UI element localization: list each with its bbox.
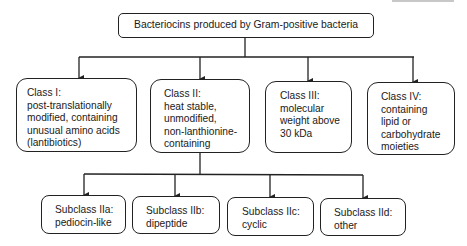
class-desc-line: weight above [280, 115, 351, 128]
subclass-title: Subclass IIa: [55, 204, 125, 217]
root-node: Bacteriocins produced by Gram-positive b… [118, 13, 374, 38]
class-desc-line: 30 kDa [280, 128, 351, 141]
class-title: Class II: [164, 88, 249, 101]
subclass-iib-node: Subclass IIb: dipeptide [132, 196, 220, 234]
class-iv-node: Class IV: containing lipid or carbohydra… [367, 82, 455, 155]
class-desc-line: unmodified, [164, 113, 249, 126]
class-desc-line: unusual amino acids [27, 125, 136, 138]
subclass-desc: cyclic [242, 219, 313, 232]
class-i-node: Class I: post-translationally modified, … [16, 78, 137, 152]
subclass-desc: pediocin-like [55, 217, 125, 230]
class-title: Class I: [27, 87, 136, 100]
class-ii-node: Class II: heat stable, unmodified, non-l… [150, 79, 250, 153]
class-desc-line: (lantibiotics) [27, 137, 136, 150]
subclass-title: Subclass IIb: [146, 205, 219, 218]
class-desc-line: modified, containing [27, 112, 136, 125]
class-desc-line: moieties [381, 141, 454, 154]
class-desc-line: containing [381, 104, 454, 117]
subclass-iia-node: Subclass IIa: pediocin-like [41, 195, 126, 234]
class-title: Class IV: [381, 91, 454, 104]
subclass-desc: dipeptide [146, 218, 219, 231]
class-desc-line: non-lanthionine- [164, 126, 249, 139]
subclass-title: Subclass IIc: [242, 206, 313, 219]
class-desc-line: lipid or [381, 116, 454, 129]
class-desc-line: containing [164, 138, 249, 151]
subclass-iic-node: Subclass IIc: cyclic [227, 197, 314, 236]
class-desc-line: molecular [280, 103, 351, 116]
subclass-title: Subclass IId: [334, 207, 405, 220]
class-desc-line: post-translationally [27, 100, 136, 113]
root-label: Bacteriocins produced by Gram-positive b… [134, 19, 358, 32]
class-title: Class III: [280, 90, 351, 103]
subclass-iid-node: Subclass IId: other [320, 198, 406, 236]
subclass-desc: other [334, 220, 405, 233]
class-iii-node: Class III: molecular weight above 30 kDa [265, 81, 352, 153]
class-desc-line: carbohydrate [381, 129, 454, 142]
class-desc-line: heat stable, [164, 101, 249, 114]
